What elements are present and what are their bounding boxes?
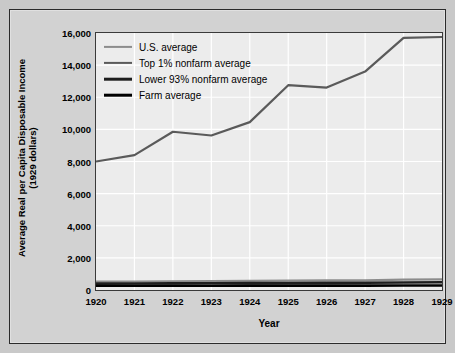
y-axis-tick-label: 14,000 [39, 60, 91, 71]
y-axis-tick-label: 2,000 [39, 252, 91, 263]
legend-item-label: U.S. average [139, 42, 197, 53]
legend-item[interactable]: Lower 93% nonfarm average [104, 73, 267, 85]
legend-line-swatch [104, 57, 132, 69]
legend-item[interactable]: U.S. average [104, 41, 267, 53]
legend-item[interactable]: Farm average [104, 89, 267, 101]
legend-line-swatch [104, 73, 132, 85]
legend-line-swatch [104, 41, 132, 53]
chart-legend: U.S. averageTop 1% nonfarm averageLower … [104, 41, 267, 101]
y-axis-tick-label: 6,000 [39, 188, 91, 199]
y-axis-tick-label: 12,000 [39, 92, 91, 103]
legend-item-label: Top 1% nonfarm average [139, 58, 251, 69]
y-axis-tick-label: 4,000 [39, 220, 91, 231]
legend-item-label: Farm average [139, 90, 201, 101]
legend-line-swatch [104, 89, 132, 101]
chart-figure: Average Real per Capita Disposable Incom… [0, 0, 455, 353]
x-axis-title: Year [95, 318, 443, 329]
y-axis-tick-labels: 02,0004,0006,0008,00010,00012,00014,0001… [34, 32, 91, 291]
y-axis-title-line1: Average Real per Capita Disposable Incom… [16, 59, 28, 257]
y-axis-tick-label: 8,000 [39, 156, 91, 167]
legend-item-label: Lower 93% nonfarm average [139, 74, 267, 85]
legend-item[interactable]: Top 1% nonfarm average [104, 57, 267, 69]
y-axis-tick-label: 10,000 [39, 124, 91, 135]
y-axis-tick-label: 0 [39, 285, 91, 296]
x-axis-tick-labels: 1920192119221923192419251926192719281929 [95, 296, 443, 312]
y-axis-tick-label: 16,000 [39, 28, 91, 39]
x-axis-tick-label: 1929 [419, 296, 455, 307]
series-line-2 [96, 282, 442, 283]
